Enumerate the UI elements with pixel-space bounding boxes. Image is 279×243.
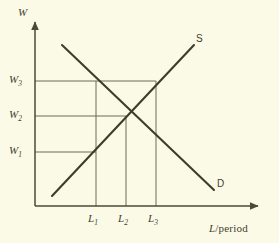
x-tick-subscript-l2: 2 xyxy=(124,218,128,227)
y-tick-label-w1: W1 xyxy=(9,144,22,159)
demand-curve xyxy=(62,45,214,190)
x-axis-title: L/period xyxy=(209,222,248,234)
y-tick-subscript-w1: 1 xyxy=(18,150,22,159)
x-tick-subscript-l1: 1 xyxy=(94,218,98,227)
x-tick-label-l3: L3 xyxy=(148,212,158,227)
y-axis-title: W xyxy=(18,6,27,18)
x-tick-label-l1: L1 xyxy=(88,212,98,227)
supply-curve xyxy=(52,45,194,196)
y-tick-symbol-w1: W xyxy=(9,144,18,156)
y-tick-subscript-w2: 2 xyxy=(18,114,22,123)
demand-curve-label: D xyxy=(217,178,224,189)
labour-market-diagram: W L/period W3 W2 W1 L1 L2 L3 S D xyxy=(0,0,279,243)
y-tick-symbol-w3: W xyxy=(9,73,18,85)
x-tick-subscript-l3: 3 xyxy=(154,218,158,227)
y-tick-label-w3: W3 xyxy=(9,73,22,88)
guide-lines xyxy=(35,81,156,206)
y-tick-subscript-w3: 3 xyxy=(18,79,22,88)
y-tick-symbol-w2: W xyxy=(9,108,18,120)
y-tick-label-w2: W2 xyxy=(9,108,22,123)
plot-canvas xyxy=(0,0,279,243)
x-tick-label-l2: L2 xyxy=(118,212,128,227)
x-axis-title-suffix: /period xyxy=(215,222,248,234)
supply-curve-label: S xyxy=(196,33,203,44)
